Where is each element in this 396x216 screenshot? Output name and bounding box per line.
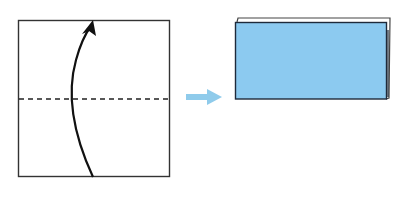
front-layer-paper [236,23,387,100]
origami-diagram [0,0,396,216]
transition-arrow-icon [186,89,222,105]
step-before [19,20,170,177]
step-after [236,18,391,99]
